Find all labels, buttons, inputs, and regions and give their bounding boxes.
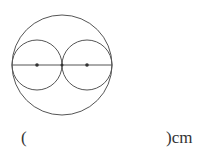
unit-label: cm [172, 128, 193, 147]
tangent-point [61, 64, 64, 67]
answer-blank[interactable] [32, 128, 162, 148]
center-point-left [35, 63, 39, 67]
close-paren-unit: )cm [166, 128, 192, 148]
answer-line: ( )cm [18, 128, 208, 150]
center-point-right [85, 63, 89, 67]
open-paren: ( [21, 128, 27, 148]
